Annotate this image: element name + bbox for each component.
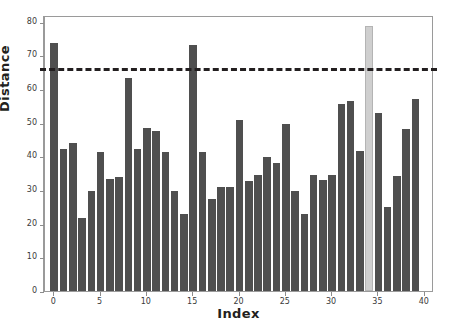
bar bbox=[78, 218, 86, 291]
x-axis-label: Index bbox=[44, 306, 433, 321]
bar bbox=[162, 152, 170, 291]
bar bbox=[310, 175, 318, 291]
x-tick-mark bbox=[424, 292, 425, 296]
bar bbox=[393, 176, 401, 291]
x-tick-label: 35 bbox=[372, 297, 382, 306]
bar bbox=[301, 214, 309, 291]
bar bbox=[245, 181, 253, 291]
bar bbox=[375, 113, 383, 291]
bar bbox=[412, 99, 420, 291]
x-tick-label: 40 bbox=[419, 297, 429, 306]
y-tick-label: 10 bbox=[27, 252, 37, 261]
x-tick-mark bbox=[100, 292, 101, 296]
x-tick-mark bbox=[53, 292, 54, 296]
threshold-line bbox=[40, 68, 437, 71]
bar bbox=[88, 191, 96, 291]
bar bbox=[226, 187, 234, 291]
bar bbox=[115, 177, 123, 291]
bar bbox=[180, 214, 188, 291]
bar bbox=[106, 179, 114, 291]
bar bbox=[50, 43, 58, 291]
bar bbox=[319, 180, 327, 291]
plot-area bbox=[45, 17, 432, 291]
bar bbox=[97, 152, 105, 291]
bar-highlighted bbox=[365, 26, 373, 291]
bar bbox=[254, 175, 262, 291]
bar bbox=[152, 131, 160, 291]
x-tick-mark bbox=[331, 292, 332, 296]
y-tick-label: 20 bbox=[27, 219, 37, 228]
x-tick-mark bbox=[285, 292, 286, 296]
x-tick-mark bbox=[377, 292, 378, 296]
bar bbox=[236, 120, 244, 291]
x-tick-label: 25 bbox=[280, 297, 290, 306]
bar bbox=[356, 151, 364, 291]
bar bbox=[171, 191, 179, 291]
x-tick-label: 30 bbox=[326, 297, 336, 306]
x-tick-label: 10 bbox=[141, 297, 151, 306]
y-tick-label: 40 bbox=[27, 151, 37, 160]
bar bbox=[143, 128, 151, 291]
y-tick-label: 30 bbox=[27, 185, 37, 194]
bar bbox=[291, 191, 299, 291]
bar bbox=[217, 187, 225, 291]
bar-chart: 01020304050607080 Distance 0510152025303… bbox=[0, 0, 457, 329]
y-tick-label: 60 bbox=[27, 84, 37, 93]
plot-frame bbox=[44, 16, 433, 292]
x-tick-label: 15 bbox=[187, 297, 197, 306]
x-tick-label: 20 bbox=[233, 297, 243, 306]
bar bbox=[189, 45, 197, 291]
bar bbox=[199, 152, 207, 291]
y-tick-label: 80 bbox=[27, 17, 37, 26]
x-tick-mark bbox=[146, 292, 147, 296]
bar bbox=[273, 163, 281, 291]
y-tick-label: 0 bbox=[32, 286, 37, 295]
bar bbox=[134, 149, 142, 291]
bar bbox=[125, 78, 133, 291]
x-tick-mark bbox=[239, 292, 240, 296]
bar bbox=[347, 101, 355, 291]
bar bbox=[384, 207, 392, 291]
bar bbox=[282, 124, 290, 291]
y-tick-label: 50 bbox=[27, 118, 37, 127]
bar bbox=[338, 104, 346, 291]
y-axis: 01020304050607080 Distance bbox=[0, 16, 44, 292]
bar bbox=[263, 157, 271, 291]
bar bbox=[208, 199, 216, 291]
bar bbox=[60, 149, 68, 291]
x-tick-label: 5 bbox=[97, 297, 102, 306]
x-tick-mark bbox=[192, 292, 193, 296]
x-tick-label: 0 bbox=[51, 297, 56, 306]
y-tick-label: 70 bbox=[27, 50, 37, 59]
bar bbox=[328, 175, 336, 291]
y-axis-label: Distance bbox=[0, 45, 12, 112]
bar bbox=[69, 143, 77, 291]
bar bbox=[402, 129, 410, 291]
